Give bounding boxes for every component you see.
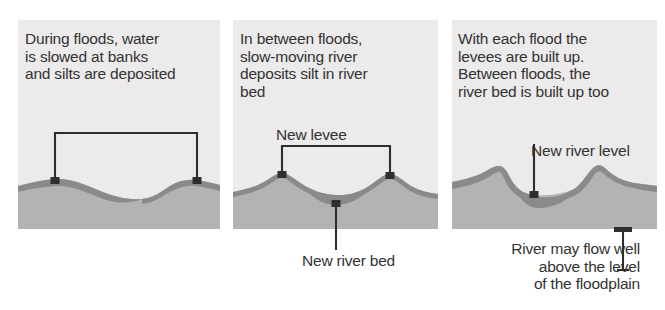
- panel-3-graphic: [0, 0, 665, 310]
- floodplain-level-cap: [614, 227, 632, 232]
- diagram-stage: During floods, water is slowed at banks …: [0, 0, 665, 310]
- new-river-level-cap: [530, 191, 539, 198]
